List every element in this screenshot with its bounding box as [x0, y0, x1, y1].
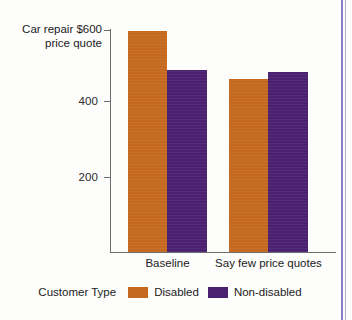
x-category-label-baseline: Baseline [128, 257, 207, 269]
legend-label-non-disabled: Non-disabled [234, 286, 302, 298]
bar-baseline-disabled [128, 31, 167, 252]
y-axis-title-line1: Car repair $600 [22, 23, 102, 35]
bar-sayfew-non-disabled [268, 72, 308, 252]
bar-baseline-non-disabled [167, 70, 207, 252]
x-category-label-say-few-price-quotes: Say few price quotes [213, 257, 324, 269]
chart-figure: Car repair $600 price quote 400 200 Base… [0, 0, 352, 320]
legend: Customer Type Disabled Non-disabled [0, 286, 340, 298]
legend-swatch-non-disabled-icon [208, 287, 228, 298]
legend-item-non-disabled[interactable]: Non-disabled [208, 286, 302, 298]
legend-title: Customer Type [38, 286, 116, 298]
legend-swatch-disabled-icon [128, 287, 148, 298]
legend-item-disabled[interactable]: Disabled [128, 286, 199, 298]
x-axis-line [110, 252, 336, 253]
y-tick-label-400: 400 [12, 95, 98, 107]
y-axis-title-line2: price quote [45, 37, 102, 49]
y-tick-400 [104, 101, 110, 102]
page-border-rule-inner [341, 0, 343, 320]
y-tick-label-200: 200 [12, 171, 98, 183]
page-border-rule-outer [345, 0, 346, 320]
y-axis-title: Car repair $600 price quote [6, 22, 102, 50]
y-axis-line [110, 29, 111, 253]
y-tick-600 [104, 30, 110, 31]
bar-sayfew-disabled [229, 79, 268, 252]
y-tick-200 [104, 177, 110, 178]
legend-label-disabled: Disabled [154, 286, 199, 298]
plot-area: Car repair $600 price quote 400 200 Base… [0, 0, 340, 320]
